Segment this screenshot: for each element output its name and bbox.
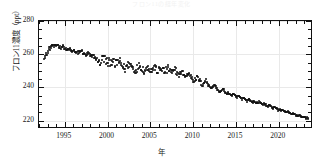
y-axis-tick bbox=[306, 121, 311, 122]
x-axis-tick bbox=[167, 124, 168, 127]
y-axis-tick bbox=[306, 54, 311, 55]
data-point bbox=[166, 72, 168, 74]
x-axis-tick bbox=[167, 21, 168, 24]
x-axis-tick bbox=[133, 124, 134, 127]
y-axis-tick bbox=[308, 104, 311, 105]
y-axis-tick bbox=[39, 121, 44, 122]
x-axis-tick bbox=[108, 122, 109, 127]
x-axis-tick bbox=[73, 124, 74, 127]
gridline-horizontal bbox=[39, 121, 311, 122]
x-axis-tick bbox=[176, 21, 177, 24]
x-axis-tick bbox=[185, 124, 186, 127]
data-point bbox=[241, 99, 243, 101]
x-tick-label: 2010 bbox=[172, 131, 212, 140]
x-axis-tick bbox=[296, 21, 297, 24]
data-point bbox=[50, 47, 52, 49]
x-axis-tick bbox=[125, 124, 126, 127]
chart-title: フロン11の経年変化 bbox=[0, 0, 323, 8]
plot-area bbox=[38, 20, 312, 128]
data-point bbox=[99, 64, 101, 66]
data-point bbox=[167, 66, 169, 68]
y-axis-tick bbox=[308, 46, 311, 47]
y-axis-tick bbox=[308, 112, 311, 113]
x-axis-tick bbox=[150, 122, 151, 127]
x-axis-tick bbox=[48, 21, 49, 24]
x-axis-tick bbox=[48, 124, 49, 127]
x-axis-tick bbox=[193, 122, 194, 127]
data-point bbox=[154, 69, 156, 71]
x-axis-tick bbox=[245, 124, 246, 127]
data-point bbox=[171, 72, 173, 74]
y-axis-tick bbox=[306, 21, 311, 22]
y-axis-tick bbox=[308, 96, 311, 97]
x-axis-tick bbox=[304, 21, 305, 24]
x-axis-tick bbox=[253, 124, 254, 127]
x-axis-tick bbox=[142, 21, 143, 24]
x-tick-label: 2005 bbox=[129, 131, 169, 140]
x-axis-tick bbox=[133, 21, 134, 24]
gridline-vertical bbox=[193, 21, 194, 127]
data-point bbox=[200, 80, 202, 82]
x-axis-tick bbox=[245, 21, 246, 24]
y-tick-label: 240 bbox=[8, 81, 34, 90]
x-axis-tick bbox=[142, 124, 143, 127]
y-axis-tick bbox=[39, 104, 42, 105]
data-point bbox=[107, 62, 109, 64]
x-axis-tick bbox=[116, 124, 117, 127]
y-axis-tick bbox=[39, 46, 42, 47]
y-axis-tick bbox=[39, 21, 44, 22]
y-axis-tick bbox=[306, 87, 311, 88]
y-tick-label: 260 bbox=[8, 48, 34, 57]
x-axis-tick bbox=[253, 21, 254, 24]
data-point bbox=[124, 68, 126, 70]
gridline-vertical bbox=[108, 21, 109, 127]
x-axis-tick bbox=[82, 124, 83, 127]
x-axis-tick bbox=[90, 21, 91, 24]
x-tick-label: 2015 bbox=[215, 131, 255, 140]
x-axis-tick bbox=[56, 124, 57, 127]
x-axis-tick bbox=[287, 124, 288, 127]
x-axis-tick bbox=[219, 124, 220, 127]
y-axis-tick bbox=[39, 79, 42, 80]
x-tick-label: 2020 bbox=[258, 131, 298, 140]
y-axis-tick bbox=[39, 71, 42, 72]
data-point bbox=[307, 117, 309, 119]
x-axis-tick bbox=[150, 21, 151, 26]
data-point bbox=[100, 62, 102, 64]
data-point bbox=[195, 79, 197, 81]
x-axis-tick bbox=[193, 21, 194, 26]
y-axis-tick bbox=[308, 63, 311, 64]
data-point bbox=[155, 65, 157, 67]
y-tick-label: 220 bbox=[8, 115, 34, 124]
x-axis-label: 年 bbox=[0, 146, 323, 157]
y-axis-tick bbox=[39, 63, 42, 64]
x-axis-tick bbox=[210, 21, 211, 24]
x-axis-tick bbox=[99, 21, 100, 24]
x-axis-tick bbox=[65, 122, 66, 127]
y-tick-label: 280 bbox=[8, 15, 34, 24]
x-axis-tick bbox=[236, 21, 237, 26]
x-axis-tick bbox=[287, 21, 288, 24]
data-point bbox=[135, 72, 137, 74]
x-axis-tick bbox=[65, 21, 66, 26]
y-axis-tick bbox=[39, 29, 42, 30]
data-point bbox=[120, 62, 122, 64]
y-axis-tick bbox=[39, 38, 42, 39]
data-point bbox=[151, 71, 153, 73]
data-point bbox=[138, 62, 140, 64]
x-axis-tick bbox=[270, 21, 271, 24]
x-axis-tick bbox=[99, 124, 100, 127]
data-point bbox=[60, 48, 62, 50]
y-axis-tick bbox=[39, 96, 42, 97]
y-axis-tick bbox=[39, 112, 42, 113]
x-axis-tick bbox=[236, 122, 237, 127]
x-axis-tick bbox=[279, 21, 280, 26]
x-axis-tick bbox=[116, 21, 117, 24]
data-point bbox=[147, 65, 149, 67]
x-axis-tick bbox=[279, 122, 280, 127]
data-point bbox=[124, 71, 126, 73]
x-axis-tick bbox=[73, 21, 74, 24]
x-axis-tick bbox=[159, 124, 160, 127]
x-axis-tick bbox=[185, 21, 186, 24]
x-axis-tick bbox=[296, 124, 297, 127]
